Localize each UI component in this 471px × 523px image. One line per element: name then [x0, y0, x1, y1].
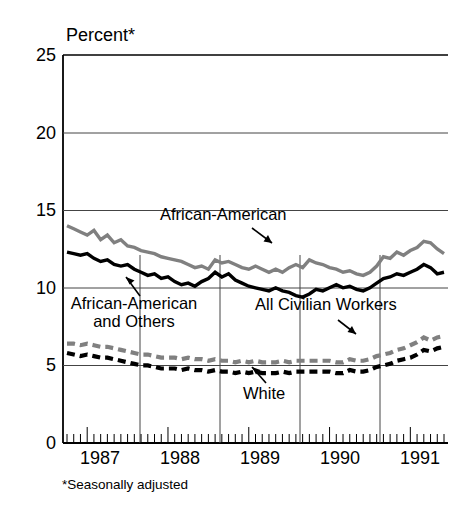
annotation-african-american-and-others-line2: and Others [93, 312, 175, 330]
x-tick-label-1987: 1987 [60, 449, 140, 468]
chart-footnote: *Seasonally adjusted [62, 478, 188, 493]
annotation-white: White [243, 385, 285, 403]
y-tick-label-25: 25 [22, 46, 56, 65]
y-tick-label-15: 15 [22, 201, 56, 220]
y-tick-label-0: 0 [22, 434, 56, 453]
unemployment-rate-chart: Percent* 0 5 10 15 20 25 1987 1988 1989 … [0, 0, 471, 523]
y-tick-label-20: 20 [22, 124, 56, 143]
annotation-african-american: African-American [160, 206, 287, 224]
x-tick-label-1990: 1990 [300, 449, 380, 468]
chart-background [0, 0, 471, 523]
annotation-african-american-and-others: African-Americanand Others [44, 295, 224, 331]
x-tick-label-1989: 1989 [220, 449, 300, 468]
x-tick-label-1991: 1991 [380, 449, 460, 468]
x-tick-label-1988: 1988 [140, 449, 220, 468]
annotation-african-american-and-others-line1: African-American [71, 294, 198, 312]
y-axis-title: Percent* [66, 26, 135, 45]
y-tick-label-5: 5 [22, 356, 56, 375]
chart-canvas [0, 0, 471, 523]
annotation-all-civilian-workers: All Civilian Workers [255, 296, 397, 314]
